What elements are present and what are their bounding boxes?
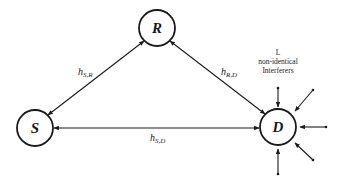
svg-text:S: S — [31, 120, 39, 136]
label-h-rd: hR,D — [221, 66, 237, 79]
node-relay: R — [139, 10, 175, 46]
relay-network-diagram: hS,R hR,D hS,D L non-identical Interfere… — [0, 0, 339, 185]
edge-s-r — [48, 41, 144, 115]
interferers-count: L — [276, 48, 281, 57]
interferers-desc-2: Interferers — [262, 66, 293, 75]
svg-text:R: R — [151, 20, 162, 36]
interferers-desc-1: non-identical — [258, 57, 298, 66]
svg-text:D: D — [272, 119, 284, 135]
node-destination: D — [260, 109, 296, 145]
edge-r-d — [170, 41, 265, 114]
label-h-sd: hS,D — [150, 132, 165, 145]
label-h-sr: hS,R — [78, 66, 93, 79]
node-source: S — [17, 110, 53, 146]
